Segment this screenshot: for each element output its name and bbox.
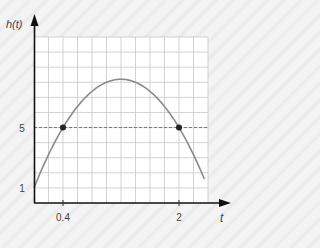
y-axis-arrow-icon [31,14,39,26]
y-tick-label-5: 5 [19,123,25,134]
data-point [60,125,66,131]
y-axis-label: h(t) [6,18,23,30]
x-axis-label: t [220,211,224,225]
y-tick-label-1: 1 [19,183,25,194]
x-tick-label-2: 2 [176,212,182,223]
parabola-chart: h(t) t 0.4 2 5 1 [0,0,242,248]
x-tick-label-0-4: 0.4 [56,212,70,223]
data-point [176,125,182,131]
x-axis-arrow-icon [219,199,231,207]
